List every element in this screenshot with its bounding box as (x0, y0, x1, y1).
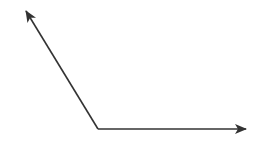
angle-diagram (0, 0, 260, 151)
vector-up-left (26, 11, 98, 129)
